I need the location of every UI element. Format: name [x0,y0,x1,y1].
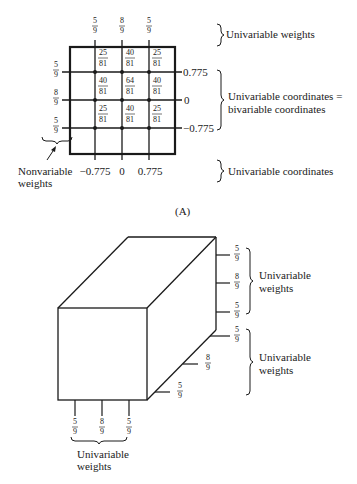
svg-text:9: 9 [120,26,124,35]
annotation-univariable-coordinates: Univariable coordinates [228,165,333,177]
svg-text:5: 5 [73,417,77,426]
depth-weight-ticks [155,336,230,392]
svg-text:5: 5 [127,417,131,426]
svg-text:40: 40 [126,48,134,57]
svg-text:40: 40 [153,76,161,85]
cell-weights: 25 81 40 81 25 81 40 81 64 81 40 81 25 8… [98,48,162,124]
svg-text:0.775: 0.775 [183,66,208,78]
arrow-icon [47,146,56,160]
left-weights: 5 9 8 9 5 9 [53,60,59,135]
svg-text:5: 5 [54,60,58,69]
svg-text:81: 81 [153,115,161,124]
svg-text:9: 9 [147,26,151,35]
right-weight-ticks [216,255,230,312]
bottom-weight-ticks [75,400,129,416]
svg-text:81: 81 [126,115,134,124]
svg-text:5: 5 [54,116,58,125]
svg-text:81: 81 [153,59,161,68]
svg-text:81: 81 [99,59,107,68]
svg-text:9: 9 [235,254,239,263]
annotation-nonvariable-line2: weights [18,177,52,189]
svg-text:81: 81 [126,87,134,96]
annotation-b-lower-line2: weights [259,364,293,376]
svg-text:40: 40 [126,104,134,113]
annotation-nonvariable-line1: Nonvariable [18,165,72,177]
svg-text:8: 8 [54,88,58,97]
svg-text:9: 9 [235,282,239,291]
annotation-b-upper-line1: Univariable [259,269,311,281]
fraction: 8 9 [119,16,125,35]
svg-text:9: 9 [235,311,239,320]
svg-text:5: 5 [93,16,97,25]
fraction: 5 9 [146,16,152,35]
svg-text:5: 5 [235,244,239,253]
svg-text:5: 5 [235,325,239,334]
svg-text:81: 81 [99,115,107,124]
svg-text:0: 0 [184,94,190,106]
fraction: 5 9 [92,16,98,35]
svg-text:8: 8 [100,417,104,426]
svg-text:5: 5 [178,381,182,390]
svg-text:25: 25 [153,104,161,113]
annotation-b-bottom-line1: Univariable [77,448,129,460]
annotation-b-lower-line1: Univariable [259,351,311,363]
top-weights: 5 9 8 9 5 9 [92,16,152,35]
svg-text:8: 8 [206,353,210,362]
svg-text:9: 9 [54,126,58,135]
svg-text:8: 8 [235,272,239,281]
svg-text:−0.775: −0.775 [183,122,214,134]
svg-text:9: 9 [127,427,131,436]
panel-label-a: (A) [175,205,191,218]
svg-text:0.775: 0.775 [138,165,163,177]
annotation-coordinates-line1: Univariable coordinates = [228,90,342,102]
svg-text:8: 8 [120,16,124,25]
annotation-univariable-weights: Univariable weights [226,28,315,40]
svg-text:9: 9 [93,26,97,35]
right-coordinates: 0.775 0 −0.775 [183,66,214,134]
svg-text:9: 9 [54,98,58,107]
svg-text:9: 9 [206,363,210,372]
annotation-b-bottom-line2: weights [77,460,111,472]
svg-text:9: 9 [100,427,104,436]
svg-text:81: 81 [126,59,134,68]
box-3d [58,237,216,400]
svg-text:9: 9 [54,70,58,79]
right-weights: 5 9 8 9 5 9 [234,244,240,320]
svg-text:0: 0 [119,165,125,177]
depth-weights: 5 9 8 9 5 9 [177,325,240,400]
svg-text:25: 25 [99,48,107,57]
svg-text:9: 9 [73,427,77,436]
bottom-weights: 5 9 8 9 5 9 [72,417,132,436]
quadrature-diagram: 5 9 8 9 5 9 5 9 8 9 5 9 25 81 40 [0,0,357,484]
svg-text:64: 64 [126,76,134,85]
bottom-coordinates: −0.775 0 0.775 [80,165,163,177]
svg-text:81: 81 [99,87,107,96]
annotation-coordinates-line2: bivariable coordinates [228,103,325,115]
svg-text:9: 9 [235,335,239,344]
svg-text:5: 5 [147,16,151,25]
svg-text:5: 5 [235,301,239,310]
svg-text:40: 40 [99,76,107,85]
annotation-b-upper-line2: weights [259,282,293,294]
svg-text:9: 9 [178,391,182,400]
svg-text:25: 25 [153,48,161,57]
svg-text:81: 81 [153,87,161,96]
svg-text:−0.775: −0.775 [80,165,111,177]
svg-text:25: 25 [99,104,107,113]
brace-icons-b [71,248,253,444]
